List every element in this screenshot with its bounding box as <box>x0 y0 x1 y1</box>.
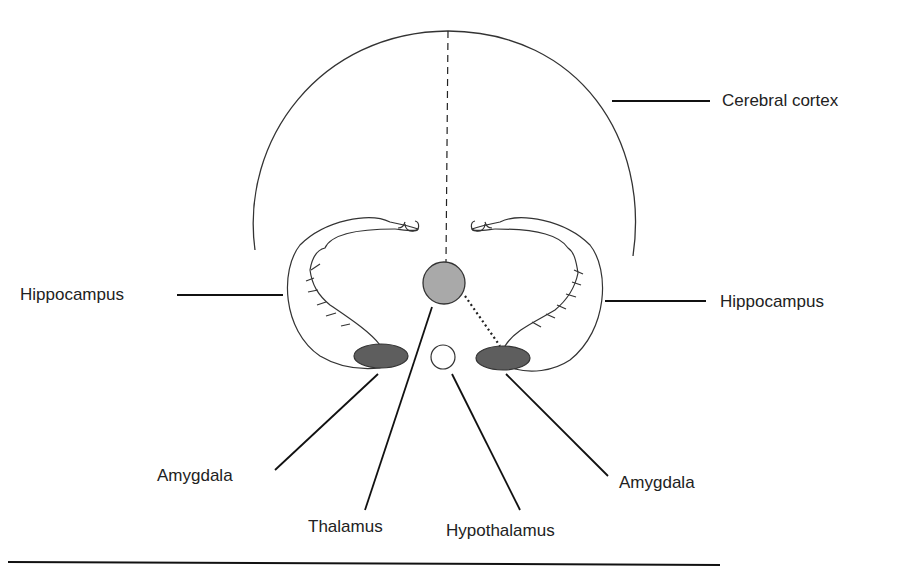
label-cerebral-cortex: Cerebral cortex <box>722 92 838 109</box>
hypothalamus-shape <box>431 345 455 369</box>
thalamus-shape <box>423 262 465 304</box>
label-hippocampus-right: Hippocampus <box>720 293 824 310</box>
amygdala-left-shape <box>354 344 408 368</box>
midline-dashed <box>446 31 448 262</box>
bottom-rule <box>8 562 720 565</box>
thalamus-amygdala-dotted <box>465 296 500 346</box>
label-amygdala-right: Amygdala <box>619 474 695 491</box>
leader-amygdala-right <box>506 374 608 476</box>
leader-hypothalamus <box>452 374 520 510</box>
label-thalamus: Thalamus <box>308 518 383 535</box>
label-hippocampus-left: Hippocampus <box>20 286 124 303</box>
amygdala-right-shape <box>476 346 530 370</box>
hippocampus-left-shape <box>287 218 418 369</box>
leader-thalamus <box>365 362 414 510</box>
label-amygdala-left: Amygdala <box>157 467 233 484</box>
leader-thalamus-top <box>414 307 432 362</box>
leader-amygdala-left <box>275 374 378 470</box>
cerebral-cortex-outline <box>253 31 635 256</box>
limbic-diagram <box>0 0 897 572</box>
label-hypothalamus: Hypothalamus <box>446 522 555 539</box>
